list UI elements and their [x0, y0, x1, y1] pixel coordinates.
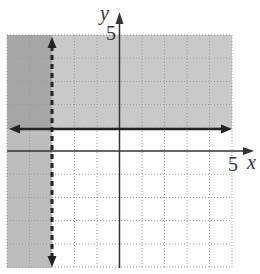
x-axis-label: x [246, 151, 256, 173]
region-overlap [7, 35, 52, 129]
y-axis-arrow-icon [116, 12, 124, 24]
y-tick-label: 5 [106, 22, 116, 44]
x-tick-label: 5 [228, 153, 238, 175]
inequality-graph: y 5 5 x [0, 0, 260, 274]
